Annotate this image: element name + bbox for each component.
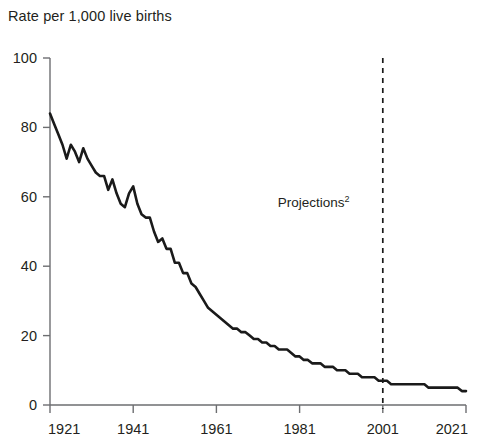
projections-label: Projections2 [278,194,350,210]
y-axis-tick-label: 0 [29,397,37,413]
x-axis-tick-label: 1941 [117,421,149,437]
annotation-superscript: 2 [345,194,350,204]
data-series-line [50,114,466,392]
x-axis-tick-label: 1981 [283,421,315,437]
y-axis-tick-label: 60 [21,189,37,205]
y-axis-tick-label: 80 [21,119,37,135]
x-axis-ticks [50,405,466,413]
y-axis-tick-labels: 020406080100 [13,50,37,413]
line-chart-plot: 020406080100 192119411961198120012021 Pr… [0,0,490,447]
x-axis-tick-label: 1921 [48,421,80,437]
x-axis-tick-label: 2021 [436,421,468,437]
x-axis-tick-label: 1961 [200,421,232,437]
x-axis-tick-label: 2001 [367,421,399,437]
x-axis-tick-labels: 192119411961198120012021 [48,421,468,437]
chart-annotations: Projections2 [278,194,350,210]
y-axis-tick-label: 20 [21,328,37,344]
y-axis-tick-label: 40 [21,258,37,274]
y-axis-tick-label: 100 [13,50,37,66]
chart-figure: Rate per 1,000 live births 020406080100 … [0,0,490,447]
y-axis-ticks [43,58,50,405]
